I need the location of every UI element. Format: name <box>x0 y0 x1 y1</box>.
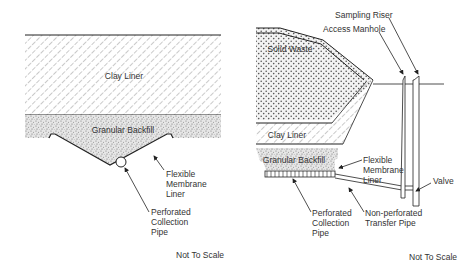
solid-waste-label: Solid Waste <box>267 44 312 54</box>
collection-pipe <box>116 157 126 167</box>
landfill-liner-diagrams: Clay Liner Granular Backfill Flexible Me… <box>0 0 473 280</box>
clay-liner-label-right: Clay Liner <box>268 130 306 140</box>
membrane-label-1: Flexible <box>166 169 196 179</box>
scale-note-right: Not To Scale <box>409 252 457 262</box>
pipe-label-right-1: Perforated <box>312 208 352 218</box>
membrane-label-right-2: Membrane <box>363 165 404 175</box>
valve-label: Valve <box>433 176 454 186</box>
access-manhole <box>401 76 405 198</box>
scale-note: Not To Scale <box>176 250 224 260</box>
membrane-label-2: Membrane <box>166 179 207 189</box>
access-manhole-label: Access Manhole <box>323 24 386 34</box>
pipe-label-3: Pipe <box>151 227 168 237</box>
sampling-riser-label: Sampling Riser <box>335 10 393 20</box>
granular-backfill-label-right: Granular Backfill <box>263 155 325 165</box>
clay-liner-label: Clay Liner <box>105 71 143 81</box>
perforated-pipe-right <box>265 171 335 177</box>
membrane-label-3: Liner <box>166 189 185 199</box>
sampling-riser <box>413 76 419 206</box>
pipe-label-right-2: Collection <box>312 218 350 228</box>
pipe-label-right-3: Pipe <box>312 228 329 238</box>
granular-backfill-label: Granular Backfill <box>92 125 154 135</box>
pipe-label-2: Collection <box>151 217 189 227</box>
membrane-label-right-1: Flexible <box>363 155 393 165</box>
right-diagram: Solid Waste Clay Liner Granular Backfill… <box>256 10 457 262</box>
left-diagram: Clay Liner Granular Backfill Flexible Me… <box>25 35 224 260</box>
pipe-label-1: Perforated <box>151 207 191 217</box>
membrane-label-right-3: Liner <box>363 175 382 185</box>
transfer-pipe-label-1: Non-perforated <box>365 208 422 218</box>
transfer-pipe-label-2: Transfer Pipe <box>365 218 416 228</box>
